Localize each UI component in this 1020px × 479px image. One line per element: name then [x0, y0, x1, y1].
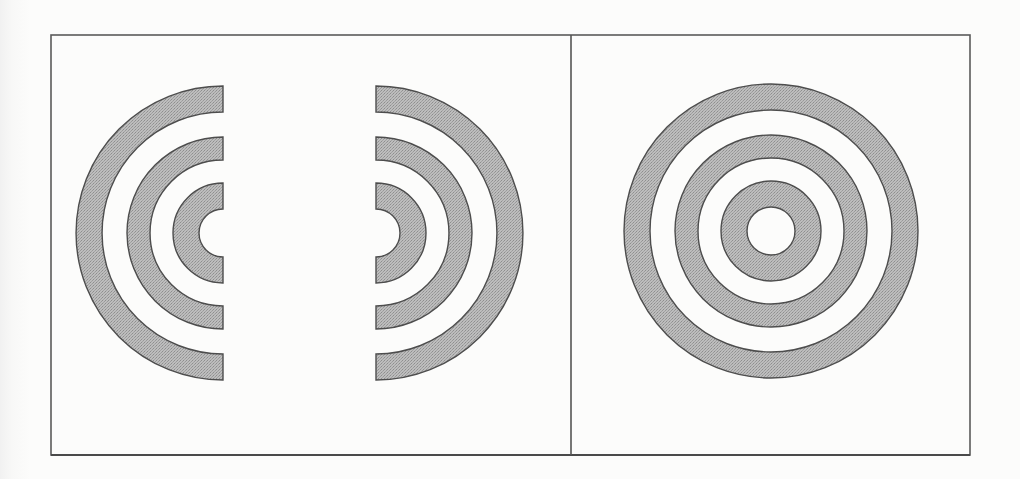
- half-ring-inner-left: [173, 183, 223, 283]
- page: Two-panel figure: left panel shows three…: [0, 0, 1020, 479]
- ring-outer: [624, 84, 918, 378]
- split-rings-right-half: [376, 86, 523, 380]
- panel-whole-rings: [624, 84, 918, 378]
- ring-middle: [675, 135, 867, 327]
- split-rings-left-half: [76, 86, 223, 380]
- figure: [0, 0, 1020, 479]
- panel-split-rings: [76, 86, 523, 380]
- half-ring-inner-right: [376, 183, 426, 283]
- ring-inner: [721, 181, 821, 281]
